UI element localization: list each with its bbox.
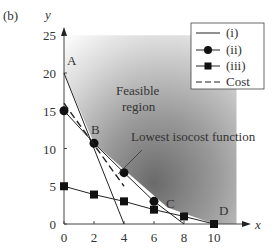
isocost-label: Lowest isocost function [131, 129, 256, 144]
legend: (i) (ii) (iii) Cost [191, 23, 264, 89]
y-tick-label: 10 [43, 142, 56, 157]
y-tick-label: 15 [43, 104, 56, 119]
legend-label-i: (i) [226, 25, 238, 40]
point-a-label: A [67, 53, 77, 68]
point-b-label: B [91, 122, 100, 137]
square-marker-icon [120, 197, 128, 205]
x-tick-label: 4 [121, 230, 128, 245]
x-axis-label: x [254, 217, 261, 232]
x-tick-label: 10 [208, 230, 221, 245]
x-tick-label: 8 [181, 230, 188, 245]
legend-label-cost: Cost [226, 74, 250, 89]
y-tick-label: 20 [43, 66, 56, 81]
y-tick-label: 5 [50, 179, 57, 194]
feasible-label-1: Feasible [116, 83, 160, 98]
y-tick-label: 25 [43, 28, 56, 43]
legend-label-iii: (iii) [226, 58, 246, 73]
point-c-label: C [166, 196, 175, 211]
y-axis-label: y [43, 7, 51, 22]
square-marker-icon [60, 182, 68, 190]
x-tick-label: 2 [91, 230, 98, 245]
feasible-label-2: region [122, 99, 156, 114]
y-axis-arrow-icon [61, 27, 67, 36]
y-tick-label: 0 [50, 217, 57, 232]
legend-circle-marker-icon [204, 46, 212, 54]
square-marker-icon [210, 220, 218, 228]
x-tick-label: 0 [61, 230, 68, 245]
circle-marker-icon [150, 197, 159, 206]
panel-label: (b) [3, 8, 18, 23]
legend-square-marker-icon [205, 63, 212, 70]
legend-label-ii: (ii) [226, 42, 242, 57]
square-marker-icon [90, 191, 98, 199]
chart: 02468100510152025 (b) y x A B C D Feasib… [0, 0, 278, 252]
x-axis-arrow-icon [242, 221, 251, 227]
circle-marker-icon [120, 168, 129, 177]
square-marker-icon [150, 206, 158, 214]
point-d-label: D [219, 203, 228, 218]
x-tick-label: 6 [151, 230, 158, 245]
square-marker-icon [180, 212, 188, 220]
